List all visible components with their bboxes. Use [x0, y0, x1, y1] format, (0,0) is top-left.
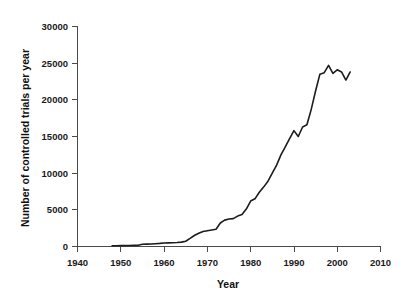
y-tick-label-20000: 20000 — [42, 94, 68, 105]
x-axis-title: Year — [217, 278, 239, 290]
x-tick-label-1940: 1940 — [67, 257, 88, 268]
x-axis-tick-labels: 1940 1950 1960 1970 1980 1990 2000 2010 — [67, 257, 391, 268]
x-tick-label-1990: 1990 — [283, 257, 304, 268]
x-tick-label-1980: 1980 — [240, 257, 261, 268]
line-chart: Number of controlled trials per year Yea… — [0, 0, 410, 301]
y-tick-label-30000: 30000 — [42, 21, 68, 32]
chart-figure: Number of controlled trials per year Yea… — [0, 0, 410, 301]
y-tick-label-10000: 10000 — [42, 168, 68, 179]
y-axis-tick-labels: 0 5000 10000 15000 20000 25000 30000 — [42, 21, 68, 252]
y-tick-label-15000: 15000 — [42, 131, 68, 142]
x-tick-label-1950: 1950 — [110, 257, 131, 268]
y-tick-label-5000: 5000 — [47, 204, 68, 215]
x-tick-label-1960: 1960 — [154, 257, 175, 268]
x-axis-ticks — [78, 247, 381, 253]
y-axis-ticks — [72, 27, 78, 247]
y-tick-label-0: 0 — [63, 241, 68, 252]
y-tick-label-25000: 25000 — [42, 58, 68, 69]
data-series-line — [112, 65, 350, 245]
x-tick-label-2000: 2000 — [327, 257, 348, 268]
y-axis-title: Number of controlled trials per year — [19, 49, 31, 227]
x-tick-label-2010: 2010 — [370, 257, 391, 268]
x-tick-label-1970: 1970 — [197, 257, 218, 268]
